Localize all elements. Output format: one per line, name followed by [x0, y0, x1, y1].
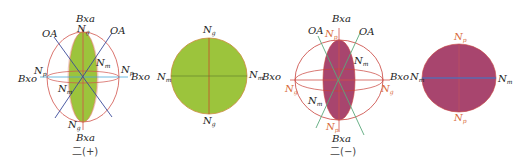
figure-biaxial-negative: Bxa OA Np OA Nm Bxo Ng Bxo Ng Nm Np Bxa … [261, 13, 409, 157]
label-bxo-left: Bxo [17, 73, 37, 84]
figure-biaxial-positive: Bxa Ng OA OA Np Bxo Nm Np Bxo Nm Ng Bxa … [17, 13, 150, 157]
label-oa-right: OA [359, 26, 374, 37]
label-ng-top: Ng [202, 24, 216, 37]
figure-negative-section: Np Np Nm Nm [409, 31, 513, 125]
figure-positive-section: Ng Ng Nm Nm [156, 24, 264, 128]
label-nm-lower: Nm [307, 95, 323, 107]
label-ng-right: Ng [380, 83, 394, 96]
label-bxa-bottom: Bxa [331, 133, 351, 144]
label-bxo-left: Bxo [261, 71, 281, 82]
label-ng-bottom: Ng [202, 115, 216, 128]
label-bxo-right: Bxo [130, 71, 150, 82]
label-oa-right: OA [110, 25, 125, 36]
label-np-top: Np [453, 31, 467, 44]
label-nm-right: Nm [497, 73, 513, 85]
label-oa-left: OA [42, 28, 57, 39]
caption-negative: 二(−) [330, 146, 356, 157]
caption-positive: 二(+) [72, 146, 98, 157]
label-nm-upper: Nm [95, 57, 111, 69]
label-ng-bottom: Ng [67, 119, 81, 132]
label-bxo-right: Bxo [389, 71, 409, 82]
label-np-top: Np [324, 28, 338, 41]
label-np-bottom: Np [453, 112, 467, 125]
label-nm-upper: Nm [353, 55, 369, 67]
label-bxa-bottom: Bxa [75, 132, 95, 143]
label-nm-left: Nm [156, 71, 172, 83]
label-oa-left: OA [308, 25, 323, 36]
label-bxa-top: Bxa [331, 13, 351, 24]
